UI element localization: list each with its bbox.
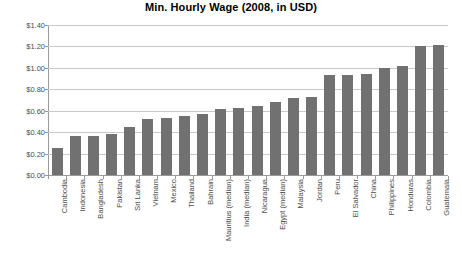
x-tick-mark bbox=[448, 176, 449, 179]
bar-slot bbox=[157, 25, 175, 175]
x-axis-label: Peru bbox=[321, 179, 339, 271]
y-tick-label: $1.20 bbox=[3, 42, 45, 51]
x-axis-label: Colombia bbox=[412, 179, 430, 271]
x-tick-mark bbox=[393, 176, 394, 179]
x-axis-label: Malaysia bbox=[284, 179, 302, 271]
bar-chart: Min. Hourly Wage (2008, in USD) $0.00$0.… bbox=[0, 0, 462, 273]
bar[interactable] bbox=[233, 108, 244, 176]
y-axis-labels: $0.00$0.20$0.40$0.60$0.80$1.00$1.20$1.40 bbox=[0, 25, 45, 175]
x-tick-mark bbox=[248, 176, 249, 179]
bar[interactable] bbox=[324, 75, 335, 175]
x-axis-label: Nicaragua bbox=[248, 179, 266, 271]
x-tick-mark bbox=[357, 176, 358, 179]
bar-slot bbox=[66, 25, 84, 175]
y-tick-label: $0.80 bbox=[3, 85, 45, 94]
x-axis-label: Bahrain bbox=[193, 179, 211, 271]
bar[interactable] bbox=[215, 109, 226, 175]
x-axis-label-text: Guatemala bbox=[443, 179, 451, 216]
x-axis-label: El Salvador bbox=[339, 179, 357, 271]
y-tick-label: $1.00 bbox=[3, 63, 45, 72]
bar-slot bbox=[375, 25, 393, 175]
bar-slot bbox=[266, 25, 284, 175]
x-axis-label: Philippines bbox=[375, 179, 393, 271]
x-axis-label: Thailand bbox=[175, 179, 193, 271]
x-tick-mark bbox=[266, 176, 267, 179]
bar-slot bbox=[139, 25, 157, 175]
x-axis-label: Mexico bbox=[157, 179, 175, 271]
bar[interactable] bbox=[142, 119, 153, 175]
y-tick-mark bbox=[45, 132, 48, 133]
bar[interactable] bbox=[179, 116, 190, 175]
x-tick-mark bbox=[139, 176, 140, 179]
y-tick-label: $0.20 bbox=[3, 149, 45, 158]
bar-slot bbox=[84, 25, 102, 175]
x-axis-label: Jordan bbox=[303, 179, 321, 271]
x-tick-mark bbox=[339, 176, 340, 179]
bar[interactable] bbox=[70, 136, 81, 175]
bar-slot bbox=[193, 25, 211, 175]
x-axis-label: Mauritius (median) bbox=[212, 179, 230, 271]
y-tick-label: $0.60 bbox=[3, 106, 45, 115]
bar-slot bbox=[248, 25, 266, 175]
y-tick-mark bbox=[45, 89, 48, 90]
bar[interactable] bbox=[270, 102, 281, 175]
bar-slot bbox=[103, 25, 121, 175]
bar[interactable] bbox=[342, 75, 353, 175]
bar-slot bbox=[121, 25, 139, 175]
bar[interactable] bbox=[361, 74, 372, 175]
bar[interactable] bbox=[52, 148, 63, 175]
x-tick-mark bbox=[157, 176, 158, 179]
bar[interactable] bbox=[197, 114, 208, 175]
x-tick-mark bbox=[303, 176, 304, 179]
x-axis-label: Sri Lanka bbox=[121, 179, 139, 271]
x-axis-label: Pakistan bbox=[103, 179, 121, 271]
x-tick-mark bbox=[193, 176, 194, 179]
bar[interactable] bbox=[124, 127, 135, 175]
bar-slot bbox=[230, 25, 248, 175]
bar-slot bbox=[430, 25, 448, 175]
x-axis-label: Egypt (median) bbox=[266, 179, 284, 271]
x-tick-mark bbox=[48, 176, 49, 179]
bar-slot bbox=[321, 25, 339, 175]
bar[interactable] bbox=[252, 106, 263, 175]
y-tick-label: $1.40 bbox=[3, 21, 45, 30]
x-tick-mark bbox=[84, 176, 85, 179]
x-tick-mark bbox=[321, 176, 322, 179]
bar[interactable] bbox=[288, 98, 299, 175]
bar-slot bbox=[303, 25, 321, 175]
x-axis-label: Bangladesh bbox=[84, 179, 102, 271]
bar-slot bbox=[357, 25, 375, 175]
x-axis-labels: CambodiaIndonesiaBangladeshPakistanSri L… bbox=[48, 179, 448, 273]
bar-slot bbox=[284, 25, 302, 175]
y-tick-mark bbox=[45, 46, 48, 47]
x-axis-label: Vietnam bbox=[139, 179, 157, 271]
bar[interactable] bbox=[433, 45, 444, 175]
y-tick-label: $0.40 bbox=[3, 128, 45, 137]
x-tick-mark bbox=[230, 176, 231, 179]
bar[interactable] bbox=[106, 134, 117, 175]
x-tick-mark bbox=[430, 176, 431, 179]
bar-slot bbox=[339, 25, 357, 175]
y-tick-mark bbox=[45, 154, 48, 155]
bar[interactable] bbox=[306, 97, 317, 175]
x-tick-mark bbox=[66, 176, 67, 179]
bar[interactable] bbox=[415, 46, 426, 175]
bar-slot bbox=[412, 25, 430, 175]
x-axis-label: Honduras bbox=[393, 179, 411, 271]
y-tick-mark bbox=[45, 111, 48, 112]
x-axis-label: China bbox=[357, 179, 375, 271]
bar-slot bbox=[175, 25, 193, 175]
x-axis-label: Indonesia bbox=[66, 179, 84, 271]
bar[interactable] bbox=[379, 68, 390, 175]
y-tick-mark bbox=[45, 68, 48, 69]
x-tick-mark bbox=[175, 176, 176, 179]
bar-slot bbox=[48, 25, 66, 175]
bar-slot bbox=[212, 25, 230, 175]
y-tick-mark bbox=[45, 25, 48, 26]
bar[interactable] bbox=[161, 118, 172, 175]
bar[interactable] bbox=[397, 66, 408, 175]
bar[interactable] bbox=[88, 136, 99, 175]
plot-area bbox=[48, 25, 448, 175]
x-axis-label: India (median) bbox=[230, 179, 248, 271]
x-axis-label: Guatemala bbox=[430, 179, 448, 271]
